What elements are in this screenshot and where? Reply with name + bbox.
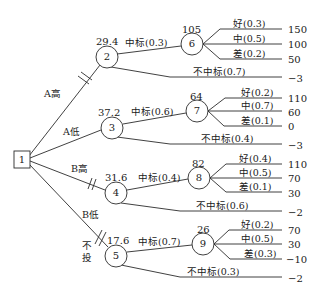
outcome-label-n8-mid: 中(0.5)	[239, 167, 272, 178]
bid-lose-payoff-n5: −2	[288, 273, 303, 284]
node-5-expected-value: 17.6	[107, 235, 129, 246]
bid-win-label-n5: 中标(0.7)	[138, 236, 181, 247]
bid-lose-label-n4: 不中标(0.6)	[196, 200, 249, 211]
node-3-expected-value: 37.2	[98, 107, 120, 118]
node-4-expected-value: 31.6	[105, 172, 127, 183]
node-8-expected-value: 82	[192, 158, 205, 169]
outcome-payoff-n8-mid: 70	[288, 173, 301, 184]
node-7-expected-value: 64	[190, 91, 203, 102]
outcome-payoff-n7-bad: 0	[288, 121, 294, 132]
outcome-label-n6-bad: 差(0.2)	[233, 48, 266, 59]
bid-lose-payoff-n2: −3	[288, 73, 303, 84]
outcome-label-n8-bad: 差(0.1)	[239, 181, 272, 192]
node-7-id: 7	[187, 105, 207, 116]
node-6-expected-value: 105	[182, 24, 201, 35]
root-node-id: 1	[12, 154, 32, 165]
prune-mark-a-high	[78, 72, 92, 84]
outcome-label-n7-mid: 中(0.7)	[241, 100, 274, 111]
node-9-expected-value: 26	[197, 224, 210, 235]
outcome-label-n9-bad: 差(0.3)	[244, 248, 277, 259]
bid-lose-payoff-n4: −2	[288, 207, 303, 218]
branch-label-b-low: B低	[82, 209, 99, 220]
node-6-id: 6	[182, 38, 202, 49]
outcome-payoff-n7-good: 110	[288, 93, 307, 104]
outcome-label-n9-good: 好(0.2)	[241, 219, 274, 230]
outcome-payoff-n9-good: 70	[288, 225, 301, 236]
outcome-label-n9-mid: 中(0.5)	[241, 233, 274, 244]
node-2-expected-value: 29.4	[96, 36, 118, 47]
outcome-payoff-n6-mid: 100	[288, 39, 307, 50]
edge-a-high	[29, 65, 100, 156]
bid-win-label-n2: 中标(0.3)	[125, 37, 168, 48]
decision-tree-diagram: 1 2 3 4 5 6 7 8 9 29.4 37.2 31.6 17.6 10…	[0, 0, 312, 295]
outcome-payoff-n7-mid: 60	[288, 107, 301, 118]
outcome-payoff-n9-bad: −10	[286, 254, 307, 265]
branch-label-b-high: B高	[71, 163, 88, 174]
branch-label-a-high: A高	[44, 88, 61, 99]
bid-lose-label-n5: 不中标(0.3)	[187, 266, 240, 277]
outcome-payoff-n8-good: 110	[288, 159, 307, 170]
node-5-id: 5	[106, 250, 126, 261]
outcome-label-n7-good: 好(0.2)	[241, 87, 274, 98]
node-8-id: 8	[189, 172, 209, 183]
bid-lose-payoff-n3: −3	[288, 140, 303, 151]
outcome-label-n7-bad: 差(0.1)	[241, 115, 274, 126]
node-2-id: 2	[97, 51, 117, 62]
outcome-payoff-n9-mid: 30	[288, 239, 301, 250]
edge-n3-lose	[117, 137, 282, 144]
bid-lose-label-n3: 不中标(0.4)	[201, 133, 254, 144]
node-9-id: 9	[193, 238, 213, 249]
outcome-label-n8-good: 好(0.4)	[239, 153, 272, 164]
bid-win-label-n3: 中标(0.6)	[131, 106, 174, 117]
outcome-label-n6-good: 好(0.3)	[233, 18, 266, 29]
node-4-id: 4	[106, 187, 126, 198]
branch-label-a-low: A低	[63, 126, 80, 137]
bid-win-label-n4: 中标(0.4)	[138, 172, 181, 183]
node-3-id: 3	[102, 122, 122, 133]
outcome-label-n6-mid: 中(0.5)	[233, 33, 266, 44]
edge-b-low	[29, 164, 108, 247]
outcome-payoff-n8-bad: 30	[288, 188, 301, 199]
outcome-payoff-n6-bad: 50	[288, 54, 301, 65]
branch-label-no-invest: 不投	[82, 240, 92, 264]
bid-lose-label-n2: 不中标(0.7)	[193, 66, 246, 77]
outcome-payoff-n6-good: 150	[288, 24, 307, 35]
